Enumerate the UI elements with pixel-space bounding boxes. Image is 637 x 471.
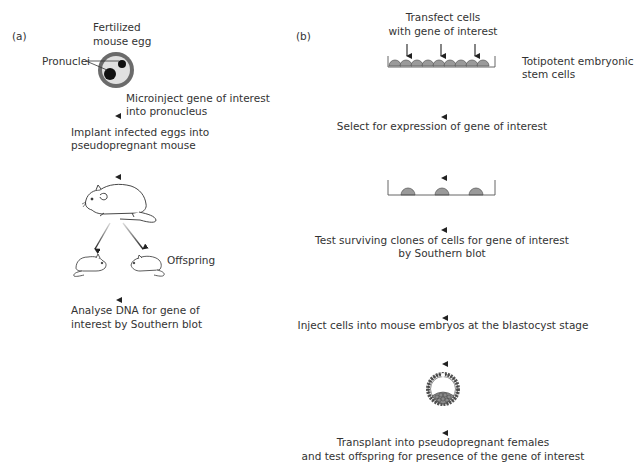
panel-b-label: (b) (296, 30, 311, 44)
adult-mouse-icon (82, 184, 156, 222)
offspring-mouse-left-icon (74, 254, 106, 276)
arrow-a3-left (95, 223, 110, 249)
culture-dish-clones-icon (388, 180, 495, 195)
offspring-label: Offspring (167, 254, 215, 268)
step-b1-line1: Transfect cells (406, 11, 481, 25)
step-b3-line2: by Southern blot (398, 247, 485, 261)
culture-dish-full-icon (388, 56, 495, 67)
arrow-a3-right (123, 223, 143, 249)
step-b3-line1: Test surviving clones of cells for gene … (315, 234, 569, 248)
step-a3-line1: Analyse DNA for gene of (71, 304, 200, 318)
step-b4: Inject cells into mouse embryos at the b… (298, 319, 589, 333)
step-a3-line2: interest by Southern blot (71, 318, 202, 332)
step-b2: Select for expression of gene of interes… (337, 120, 547, 134)
step-a1-line1: Microinject gene of interest (126, 92, 270, 106)
stem-cells-label-line1: Totipotent embryonic (522, 55, 634, 69)
blastocyst-icon (428, 373, 458, 404)
offspring-mouse-right-icon (131, 255, 164, 276)
panel-a-label: (a) (12, 30, 27, 44)
step-b5-line2: and test offspring for presence of the g… (302, 450, 585, 464)
pronuclei-label: Pronuclei (42, 55, 90, 69)
egg-label-line2: mouse egg (93, 35, 151, 49)
transfection-arrows (407, 44, 475, 56)
egg-label-line1: Fertilized (93, 21, 141, 35)
step-a2-line1: Implant infected eggs into (71, 126, 209, 140)
step-a2-line2: pseudopregnant mouse (71, 139, 196, 153)
fertilized-egg-icon (98, 52, 134, 88)
stem-cells-label-line2: stem cells (522, 68, 575, 82)
step-b1-line2: with gene of interest (389, 25, 498, 39)
step-a1-line2: into pronucleus (126, 105, 207, 119)
step-b5-line1: Transplant into pseudopregnant females (337, 436, 549, 450)
